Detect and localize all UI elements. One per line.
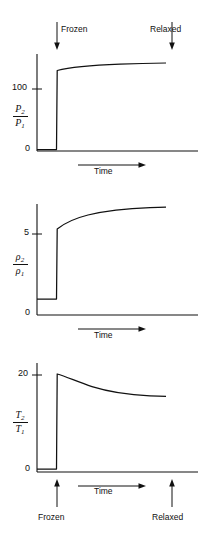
panel2-y-axis-label: ρ2 ρ1 [9,252,31,277]
panel3-time-label: Time [94,487,113,496]
panel3-tick-label-20: 20 [18,369,28,378]
panel2-tick-label-5: 5 [24,228,29,237]
panel1-relaxed-label: Relaxed [150,25,181,34]
panel1-time-label: Time [94,167,113,176]
panel1-y-numerator: P2 [9,104,31,115]
panel1-frozen-label: Frozen [61,25,87,34]
data-curve [37,63,166,150]
panel2-time-label: Time [94,331,113,340]
panel2-y-denominator: ρ1 [9,266,31,277]
panel3-y-numerator: T2 [9,410,31,421]
shock-property-ratio-figure: 100 0 P2 P1 Frozen Relaxed Time 5 0 ρ2 ρ… [0,0,201,535]
data-curve [37,207,166,299]
panel1-y-axis-label: P2 P1 [9,104,31,129]
panel3-y-axis-label: T2 T1 [9,410,31,435]
panel-temperature-ratio [0,355,201,535]
panel3-origin-label: 0 [25,464,30,473]
panel2-origin-label: 0 [25,308,30,317]
panel1-tick-label-100: 100 [12,83,27,92]
data-curve [37,374,166,469]
frozen-arrow-icon [54,479,60,507]
panel1-origin-label: 0 [25,144,30,153]
panel3-frozen-label: Frozen [38,513,64,522]
panel1-y-denominator: P1 [9,118,31,129]
panel2-y-numerator: ρ2 [9,252,31,263]
frozen-arrow-icon [54,22,60,50]
panel3-y-denominator: T1 [9,424,31,435]
relaxed-arrow-icon [169,479,175,507]
panel3-relaxed-label: Relaxed [152,513,183,522]
